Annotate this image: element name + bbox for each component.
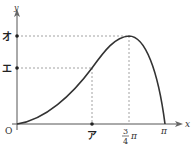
x-tick-label-pi: π: [160, 126, 168, 136]
origin-label: O: [5, 126, 12, 136]
y-axis-label: y: [13, 3, 19, 12]
y-tick-label-o: オ: [2, 31, 12, 42]
guide-lines: [17, 36, 129, 124]
y-tick-label-e: エ: [2, 63, 12, 74]
point-a-on-x-axis: [90, 122, 94, 126]
point-o-on-y-axis: [15, 34, 19, 38]
x-tick-label-3-4-pi: 3 4 π: [122, 127, 138, 146]
fraction-pi: π: [130, 131, 138, 141]
point-e-on-y-axis: [15, 66, 19, 70]
x-axis-label: x: [185, 119, 190, 129]
function-graph: y x O オ エ ア 3 4 π π: [0, 0, 196, 149]
axes: [12, 14, 178, 130]
fraction-denominator: 4: [123, 137, 128, 146]
fraction-numerator: 3: [123, 127, 128, 136]
x-tick-label-a: ア: [87, 130, 97, 141]
function-curve: [17, 36, 165, 124]
